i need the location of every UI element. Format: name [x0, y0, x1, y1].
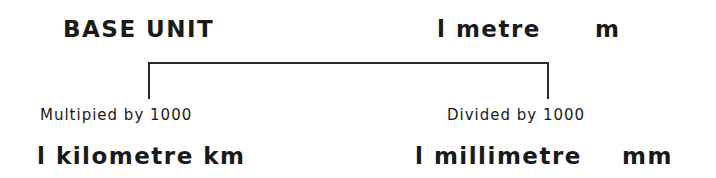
- multiply-label: Multipied by 1000: [40, 106, 192, 124]
- connector-right: [547, 62, 549, 99]
- base-unit-symbol: m: [595, 16, 620, 42]
- connector-left: [148, 62, 150, 99]
- kilometre-result: l kilometre km: [37, 143, 246, 169]
- millimetre-symbol: mm: [622, 143, 673, 169]
- millimetre-result: l millimetre: [415, 143, 582, 169]
- base-unit-label: BASE UNIT: [63, 16, 214, 42]
- base-unit-value: l metre: [437, 16, 541, 42]
- connector-horizontal: [148, 62, 549, 64]
- divide-label: Divided by 1000: [447, 106, 585, 124]
